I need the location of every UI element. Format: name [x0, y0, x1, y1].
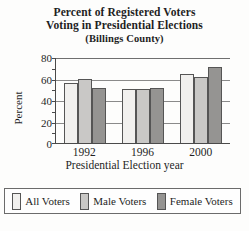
title-line-1: Percent of Registered Voters — [0, 6, 249, 19]
y-tick-label: 20 — [24, 117, 52, 128]
legend-label: Male Voters — [93, 195, 146, 207]
legend-swatch-all-voters — [12, 193, 21, 210]
legend-item-female-voters[interactable]: Female Voters — [157, 193, 233, 210]
y-tick-label: 80 — [24, 53, 52, 64]
y-tick-mark — [52, 143, 56, 144]
figure: Percent of Registered Voters Voting in P… — [0, 0, 249, 231]
legend-item-all-voters[interactable]: All Voters — [12, 193, 70, 210]
chart-title: Percent of Registered Voters Voting in P… — [0, 6, 249, 45]
title-line-2: Voting in Presidential Elections — [0, 19, 249, 32]
x-tick-labels: 1992 1996 2000 — [55, 146, 230, 158]
bar-1992-male[interactable] — [78, 79, 92, 144]
y-tick-label: 40 — [24, 96, 52, 107]
bar-1996-male[interactable] — [136, 89, 150, 143]
bar-group-1992 — [64, 58, 106, 143]
x-axis-label: Presidential Election year — [0, 159, 249, 171]
x-tick-label: 2000 — [177, 146, 225, 158]
chart-subtitle: (Billings County) — [0, 32, 249, 45]
y-tick-label: 0 — [24, 139, 52, 150]
bar-group-2000 — [180, 58, 222, 143]
legend-label: Female Voters — [170, 195, 233, 207]
legend-swatch-male-voters — [80, 193, 89, 210]
chart-legend: All Voters Male Voters Female Voters — [4, 188, 241, 214]
bar-1992-all[interactable] — [64, 83, 78, 143]
bar-2000-female[interactable] — [208, 67, 222, 143]
legend-item-male-voters[interactable]: Male Voters — [80, 193, 146, 210]
y-axis-label: Percent — [12, 78, 24, 138]
legend-swatch-female-voters — [157, 193, 166, 210]
x-tick-label: 1996 — [118, 146, 166, 158]
bar-group-1996 — [122, 58, 164, 143]
bar-1996-female[interactable] — [150, 88, 164, 143]
bar-1992-female[interactable] — [92, 88, 106, 143]
y-tick-label: 60 — [24, 74, 52, 85]
legend-label: All Voters — [25, 195, 70, 207]
bar-2000-male[interactable] — [194, 77, 208, 143]
bar-1996-all[interactable] — [122, 89, 136, 143]
x-tick-label: 1992 — [60, 146, 108, 158]
y-tick-labels: 80 60 40 20 0 — [24, 58, 52, 144]
bar-2000-all[interactable] — [180, 74, 194, 143]
bars-layer — [56, 58, 230, 143]
axes — [55, 58, 230, 144]
plot-area: Percent 80 60 40 20 0 — [0, 58, 249, 160]
